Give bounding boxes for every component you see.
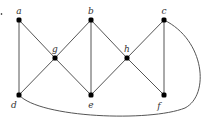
label-d: d	[11, 100, 17, 110]
node-c	[162, 18, 167, 23]
label-a: a	[16, 6, 21, 16]
node-a	[17, 18, 22, 23]
graph-diagram: a b c g h d e f	[0, 0, 212, 123]
label-e: e	[88, 100, 93, 110]
edge-h-c	[127, 20, 164, 58]
edge-d-c-curved	[19, 20, 200, 116]
node-g	[53, 56, 58, 61]
marker-dot	[1, 13, 3, 15]
node-b	[89, 18, 94, 23]
label-g: g	[52, 44, 58, 54]
edge-h-f	[127, 58, 164, 95]
node-f	[162, 93, 167, 98]
edge-g-d	[19, 58, 55, 95]
edge-h-e	[91, 58, 127, 95]
label-h: h	[124, 44, 130, 54]
label-b: b	[88, 6, 94, 16]
node-d	[17, 93, 22, 98]
edge-g-b	[55, 20, 91, 58]
label-c: c	[161, 6, 166, 16]
edge-g-e	[55, 58, 91, 95]
node-e	[89, 93, 94, 98]
edges	[19, 20, 200, 116]
node-h	[125, 56, 130, 61]
label-f: f	[156, 101, 162, 111]
edge-b-h	[91, 20, 127, 58]
edge-a-g	[19, 20, 55, 58]
